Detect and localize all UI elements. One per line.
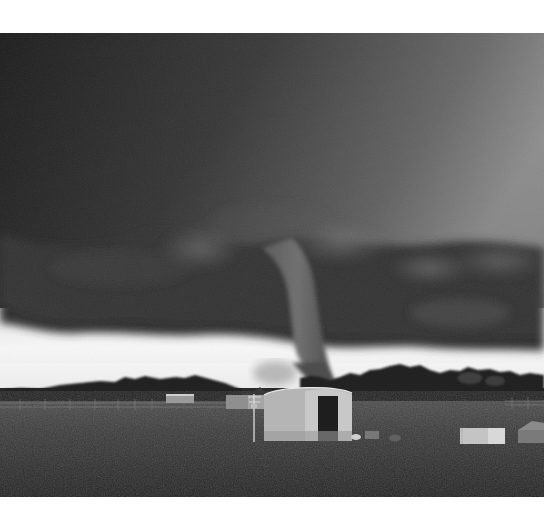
white-trailer-right: [460, 428, 505, 444]
photo-canvas: [0, 33, 544, 497]
small-shed-left: [166, 394, 194, 403]
quonset-barn: [264, 388, 352, 441]
tornado-photo: Black and white photo of a tornado funne…: [0, 33, 544, 497]
film-grain: [0, 33, 544, 333]
